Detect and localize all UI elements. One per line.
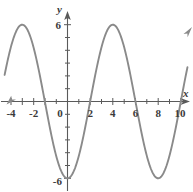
- plot-canvas: [0, 0, 193, 192]
- x-tick-label-2: 2: [87, 108, 93, 119]
- curve-right-arrowhead: [184, 27, 193, 37]
- x-tick-label-6: 6: [133, 108, 139, 119]
- y-axis-label: y: [57, 4, 62, 15]
- x-tick-label-8: 8: [155, 108, 161, 119]
- y-tick-label-6: 6: [56, 19, 62, 30]
- x-tick-label-10: 10: [175, 108, 186, 119]
- x-tick-label-0: 0: [57, 108, 63, 119]
- x-tick-label--2: -2: [29, 108, 38, 119]
- x-axis-label: x: [183, 88, 189, 99]
- graph-figure: -4 -2 0 2 4 6 8 10 6 -6 y x: [0, 0, 193, 192]
- x-tick-label-4: 4: [110, 108, 116, 119]
- y-tick-label--6: -6: [53, 176, 62, 187]
- x-tick-label--4: -4: [6, 108, 15, 119]
